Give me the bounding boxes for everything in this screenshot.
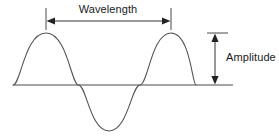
amplitude-arrowhead-bottom	[211, 76, 218, 85]
sine-wave-curve	[13, 33, 196, 131]
amplitude-arrowhead-top	[211, 34, 218, 43]
amplitude-label: Amplitude	[226, 52, 276, 63]
wave-anatomy-diagram: Wavelength Amplitude	[0, 0, 279, 139]
wavelength-label: Wavelength	[0, 4, 216, 15]
wavelength-arrowhead-right	[162, 17, 171, 24]
wavelength-arrowhead-left	[47, 17, 56, 24]
wave-diagram-canvas	[0, 0, 279, 139]
